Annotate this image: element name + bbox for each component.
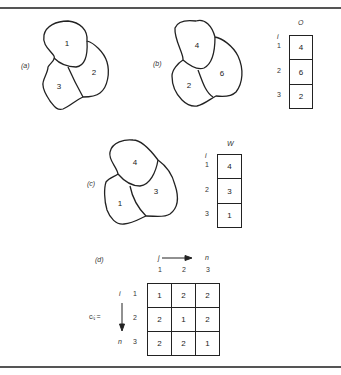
- matrix-cell: 2: [195, 307, 220, 332]
- row-header: 2: [133, 314, 137, 321]
- row-arrowhead: [120, 324, 125, 331]
- map-b: [172, 20, 242, 106]
- figure-d-label: (d): [95, 256, 104, 263]
- map-b-outline: [172, 20, 242, 106]
- map-c: [105, 140, 178, 224]
- row-header: 1: [133, 290, 137, 297]
- col-index-label: j: [158, 254, 160, 261]
- col-header: 3: [206, 266, 210, 273]
- map-c-border-2: [130, 186, 146, 216]
- matrix-cell: 2: [171, 283, 196, 308]
- matrix-cell: 2: [147, 331, 172, 356]
- row-index-label: i: [119, 290, 121, 297]
- region-label: 2: [92, 68, 96, 77]
- col-arrowhead: [185, 256, 192, 261]
- table-o-cell: 6: [289, 59, 313, 85]
- figure-b-label: (b): [153, 60, 162, 67]
- matrix-label: cᵢⱼ =: [89, 313, 101, 321]
- table-w-index-label: i: [205, 152, 207, 159]
- table-w-cell: 3: [217, 178, 242, 204]
- matrix-cell: 1: [147, 283, 172, 308]
- figure-c-label: (c): [87, 180, 95, 187]
- region-label: 4: [195, 41, 199, 50]
- col-end-label: n: [205, 254, 209, 261]
- table-w-title: W: [227, 140, 234, 147]
- table-o-title: O: [298, 19, 303, 26]
- table-w-cell: 4: [217, 154, 242, 179]
- table-o-row-index: 2: [277, 67, 281, 74]
- col-header: 1: [158, 266, 162, 273]
- region-label: 6: [220, 69, 224, 78]
- matrix-cell: 2: [195, 283, 220, 308]
- map-a-outline: [43, 21, 108, 109]
- figure-a-label: (a): [21, 62, 30, 69]
- table-w-row-index: 2: [205, 186, 209, 193]
- region-label: 3: [57, 82, 61, 91]
- table-o-row-index: 3: [277, 91, 281, 98]
- matrix-cell: 1: [171, 307, 196, 332]
- matrix-cell: 2: [147, 307, 172, 332]
- region-label: 4: [133, 158, 137, 167]
- table-o-cell: 4: [289, 35, 313, 60]
- col-header: 2: [182, 266, 186, 273]
- table-o-cell: 2: [289, 84, 313, 109]
- table-w-cell: 1: [217, 203, 242, 228]
- map-b-border-2: [198, 70, 213, 97]
- map-a: [43, 21, 108, 109]
- region-label: 1: [118, 199, 122, 208]
- map-a-border-1: [54, 41, 87, 67]
- table-w-row-index: 3: [205, 210, 209, 217]
- matrix-cell: 2: [171, 331, 196, 356]
- matrix-cell: 1: [195, 331, 220, 356]
- row-header: 3: [133, 338, 137, 345]
- map-c-outline: [105, 140, 178, 224]
- region-label: 1: [65, 39, 69, 48]
- row-end-label: n: [118, 338, 122, 345]
- map-a-border-2: [68, 67, 83, 97]
- table-o-index-label: i: [277, 33, 279, 40]
- table-o-row-index: 1: [277, 42, 281, 49]
- map-c-border-1: [118, 160, 158, 186]
- table-w-row-index: 1: [205, 161, 209, 168]
- region-label: 3: [154, 187, 158, 196]
- region-label: 2: [187, 81, 191, 90]
